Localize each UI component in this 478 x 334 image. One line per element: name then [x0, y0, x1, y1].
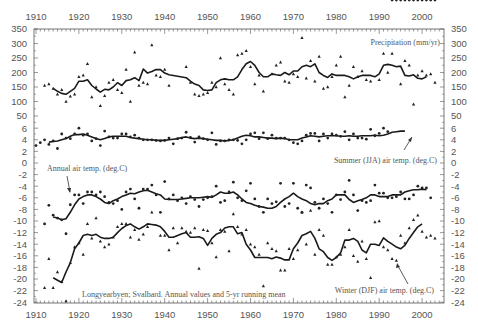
data-point-triangle-icon	[425, 74, 428, 77]
y-tick-label-right: -20	[451, 273, 465, 284]
data-point-triangle-icon	[296, 75, 299, 78]
data-point-triangle-icon	[236, 53, 239, 56]
data-point-triangle-icon	[300, 36, 303, 39]
data-point-circle-icon	[245, 189, 248, 192]
y-tick-label-right: 6	[451, 123, 456, 134]
data-point-triangle-icon	[378, 78, 381, 81]
y-tick-label-left: -8	[19, 204, 27, 215]
data-point-circle-icon	[343, 130, 346, 133]
data-point-circle-icon	[43, 223, 46, 226]
data-point-circle-icon	[155, 139, 158, 142]
data-point-circle-icon	[108, 136, 111, 139]
data-point-circle-icon	[180, 137, 183, 140]
x-tick-label-bottom: 1940	[154, 309, 175, 320]
data-point-triangle-icon	[90, 95, 93, 98]
data-point-circle-icon	[374, 134, 377, 137]
data-point-circle-icon	[65, 232, 68, 235]
data-point-circle-icon	[185, 131, 188, 134]
data-point-triangle-icon	[425, 235, 428, 238]
data-point-triangle-icon	[395, 259, 398, 262]
data-point-triangle-icon	[99, 240, 102, 243]
running-mean-line	[53, 62, 426, 95]
data-point-triangle-icon	[309, 209, 312, 212]
data-point-circle-icon	[78, 194, 81, 197]
data-point-triangle-icon	[167, 84, 170, 87]
data-point-circle-icon	[434, 0, 437, 1]
data-point-circle-icon	[206, 138, 209, 141]
data-point-circle-icon	[95, 137, 98, 140]
data-point-triangle-icon	[99, 104, 102, 107]
x-tick-label-bottom: 1910	[25, 309, 46, 320]
data-point-triangle-icon	[56, 92, 59, 95]
data-point-circle-icon	[90, 140, 93, 143]
data-point-triangle-icon	[86, 62, 89, 65]
annual-arrowhead-icon	[67, 188, 71, 193]
data-point-triangle-icon	[249, 242, 252, 245]
data-point-circle-icon	[369, 128, 372, 131]
data-point-circle-icon	[232, 138, 235, 141]
data-point-circle-icon	[356, 209, 359, 212]
data-point-circle-icon	[288, 138, 291, 141]
y-tick-label-right: 350	[451, 23, 467, 34]
data-point-circle-icon	[339, 198, 342, 201]
data-point-circle-icon	[60, 133, 63, 136]
x-tick-label-top: 1950	[197, 11, 218, 22]
data-point-triangle-icon	[197, 94, 200, 97]
y-tick-label-left: -20	[13, 273, 27, 284]
data-point-circle-icon	[258, 205, 261, 208]
data-point-triangle-icon	[399, 82, 402, 85]
data-point-circle-icon	[266, 137, 269, 140]
data-point-circle-icon	[163, 180, 166, 183]
data-point-circle-icon	[103, 130, 106, 133]
data-point-triangle-icon	[219, 228, 222, 231]
data-point-circle-icon	[352, 194, 355, 197]
data-point-triangle-icon	[129, 235, 132, 238]
x-tick-label-top: 1960	[240, 11, 261, 22]
data-point-triangle-icon	[356, 260, 359, 263]
data-point-triangle-icon	[116, 225, 119, 228]
data-point-circle-icon	[283, 205, 286, 208]
data-point-triangle-icon	[197, 267, 200, 270]
summer-temp-series	[35, 0, 432, 150]
data-point-circle-icon	[429, 196, 432, 199]
data-point-circle-icon	[142, 138, 145, 141]
data-point-triangle-icon	[421, 69, 424, 72]
data-point-circle-icon	[206, 196, 209, 199]
data-point-circle-icon	[296, 142, 299, 145]
data-point-triangle-icon	[60, 88, 63, 91]
data-point-triangle-icon	[94, 85, 97, 88]
chart-container: 1910191019201920193019301940194019501950…	[0, 0, 478, 334]
y-tick-label-left: -14	[13, 239, 27, 250]
y-tick-label-left: 4	[22, 134, 27, 145]
data-point-triangle-icon	[103, 245, 106, 248]
data-point-circle-icon	[309, 132, 312, 135]
chart-caption: Longyearbyen; Svalbard. Annual values an…	[82, 290, 286, 299]
data-point-triangle-icon	[245, 228, 248, 231]
data-point-circle-icon	[356, 137, 359, 140]
x-tick-label-top: 1980	[326, 11, 347, 22]
data-point-triangle-icon	[193, 226, 196, 229]
data-point-triangle-icon	[313, 253, 316, 256]
climate-chart: 1910191019201920193019301940194019501950…	[0, 0, 478, 334]
data-point-circle-icon	[348, 138, 351, 141]
data-point-circle-icon	[112, 202, 115, 205]
x-tick-label-top: 1940	[154, 11, 175, 22]
data-point-circle-icon	[99, 191, 102, 194]
data-point-circle-icon	[198, 205, 201, 208]
x-tick-label-bottom: 1930	[111, 309, 132, 320]
data-point-circle-icon	[176, 199, 179, 202]
y-tick-label-left: 2	[22, 146, 27, 157]
data-point-circle-icon	[73, 194, 76, 197]
data-point-circle-icon	[296, 207, 299, 210]
data-point-triangle-icon	[64, 100, 67, 103]
data-point-triangle-icon	[56, 270, 59, 273]
x-tick-label-bottom: 1970	[283, 309, 304, 320]
data-point-triangle-icon	[283, 269, 286, 272]
data-point-circle-icon	[73, 133, 76, 136]
data-point-circle-icon	[86, 133, 89, 136]
y-tick-label-right: -2	[451, 169, 459, 180]
y-tick-label-left: -12	[13, 227, 27, 238]
data-point-triangle-icon	[155, 74, 158, 77]
y-tick-label-left: 6	[22, 123, 27, 134]
data-point-triangle-icon	[360, 240, 363, 243]
